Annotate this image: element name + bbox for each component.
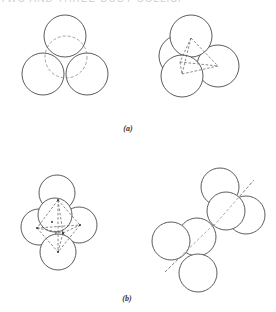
sphere-outline	[152, 222, 190, 260]
panel-label-a: (a)	[123, 124, 132, 133]
panel-b	[21, 168, 265, 292]
sphere-outline	[161, 55, 203, 97]
sphere-center-point	[57, 251, 59, 253]
tetrahedral-four-spheres	[159, 15, 239, 97]
octahedral-six-spheres	[21, 175, 97, 270]
sphere-center-point	[36, 227, 38, 229]
sphere-center-point	[62, 232, 64, 234]
sphere-center-point	[57, 199, 59, 201]
panel-label-b: (b)	[122, 294, 131, 303]
sphere-outline	[207, 192, 245, 230]
linear-three-sphere-lower	[152, 218, 217, 292]
sphere-outline	[179, 254, 217, 292]
sphere-outline	[22, 53, 64, 95]
sphere-center-point	[51, 221, 53, 223]
sphere-outline	[170, 15, 212, 57]
sphere-packing-figure	[0, 0, 276, 312]
sphere-center-point	[79, 224, 81, 226]
three-spheres-with-dashed-fourth	[22, 15, 108, 95]
panel-a	[22, 15, 239, 97]
